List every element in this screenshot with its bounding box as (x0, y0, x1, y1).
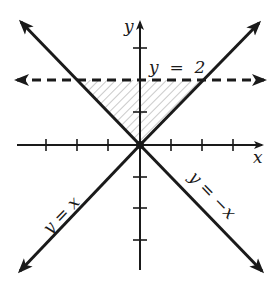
line-y2-label: y = 2 (148, 57, 205, 77)
line-y-equals-neg-x-lower (140, 145, 262, 271)
x-axis-label: x (253, 147, 263, 167)
line-ynegx-label: y = −x (184, 166, 240, 223)
y-axis-label: y (123, 16, 134, 36)
origin-point (136, 141, 144, 149)
line-yx-label: y = x (38, 192, 84, 239)
coordinate-plane-figure: y x y = 2 y = x y = −x (0, 0, 278, 285)
